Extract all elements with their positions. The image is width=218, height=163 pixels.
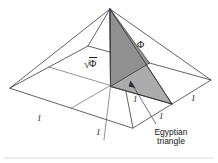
phi-label: Φ	[137, 39, 144, 50]
drop-line-center	[104, 87, 111, 141]
egyptian-triangle-callout: Egyptian triangle	[140, 128, 202, 147]
base-unit-right: 1	[191, 94, 196, 104]
callout-line-2: triangle	[140, 137, 202, 146]
base-unit-front-right: 1	[159, 112, 164, 122]
sqrt-phi-label: √Φ	[84, 57, 97, 70]
pyramid-figure: √Φ Φ 1 1 1 1 1 Egyptian triangle	[0, 0, 218, 163]
edge-apex-back	[88, 9, 110, 46]
base-unit-inner: 1	[133, 95, 138, 105]
egyptian-triangle-shaded	[110, 9, 172, 104]
sqrt-symbol-group: √Φ	[84, 57, 97, 70]
radicand: Φ	[89, 57, 97, 69]
edge-apex-left	[10, 9, 110, 88]
base-unit-front: 1	[96, 128, 101, 138]
base-unit-left: 1	[37, 114, 42, 124]
